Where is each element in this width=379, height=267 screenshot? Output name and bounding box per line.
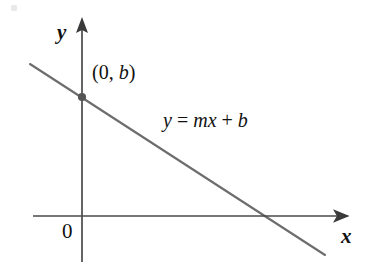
y-intercept-label-close: ) [129,61,136,83]
y-intercept-label-open: (0, [92,61,119,83]
equation-label: y = mx + b [163,110,248,130]
equation-equals: = [172,109,193,131]
equation-intercept: b [238,109,248,131]
equation-plus: + [217,109,238,131]
equation-slope: m [193,109,207,131]
y-intercept-dot [78,93,86,101]
equation-variable-x: x [208,109,217,131]
origin-label: 0 [62,221,73,242]
function-line [30,64,325,255]
y-intercept-label-var: b [119,61,129,83]
equation-lhs: y [163,109,172,131]
y-axis-label: y [57,22,66,43]
x-axis-label: x [341,226,352,247]
linear-function-figure: y x 0 (0, b) y = mx + b [0,0,379,267]
scan-artifact-speck [11,5,17,11]
y-intercept-label: (0, b) [92,62,135,82]
